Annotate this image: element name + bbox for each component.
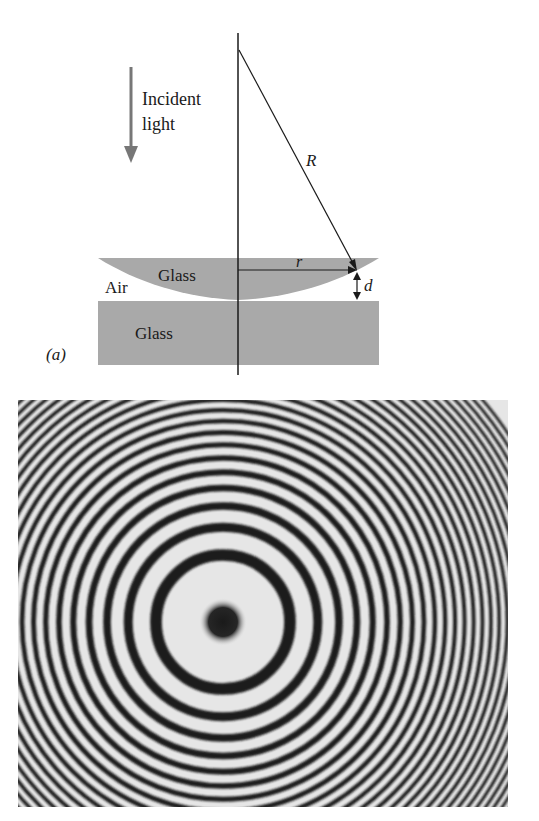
radius-R-line	[239, 50, 355, 267]
newtons-rings-diagram	[0, 0, 539, 400]
newtons-rings-photo	[18, 400, 508, 807]
incident-label-line1: Incident	[142, 90, 201, 108]
plate-glass-label: Glass	[135, 325, 173, 342]
incident-label-line2: light	[142, 115, 175, 133]
radius-r-label: r	[296, 254, 302, 270]
radius-R-label: R	[306, 152, 316, 169]
panel-label: (a)	[46, 346, 66, 363]
gap-d-label: d	[364, 277, 373, 294]
gap-d-arrow-icon	[353, 272, 361, 300]
incident-arrow-icon	[124, 67, 138, 163]
lens-glass-label: Glass	[158, 267, 196, 284]
central-dark-spot	[199, 598, 247, 646]
air-label: Air	[105, 279, 128, 296]
